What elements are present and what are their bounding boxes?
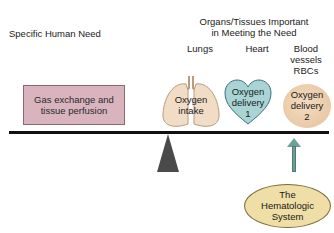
column-label-lungs: Lungs (180, 43, 220, 54)
need-box: Gas exchange and tissue perfusion (23, 85, 125, 125)
need-column-title: Specific Human Need (9, 28, 101, 39)
rbc-label: Oxygen delivery 2 (283, 89, 331, 122)
fulcrum-triangle (157, 134, 179, 172)
heart-label: Oxygen delivery 1 (223, 86, 273, 119)
lungs-label: Oxygen intake (160, 94, 222, 116)
column-label-heart: Heart (237, 43, 277, 54)
column-label-blood-vessels: Blood vessels RBCs (283, 43, 329, 76)
organs-column-title: Organs/Tissues Important in Meeting the … (188, 16, 320, 38)
arrow-shaft (292, 146, 296, 172)
hematologic-system-label: The Hematologic System (244, 189, 331, 222)
